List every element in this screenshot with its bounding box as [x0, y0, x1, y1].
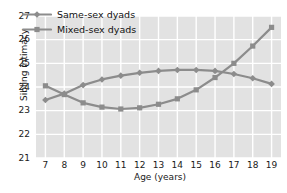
data-point-marker-square [118, 106, 123, 111]
data-point-marker-square [212, 75, 217, 80]
data-point-marker-diamond [231, 71, 238, 78]
data-point-marker-diamond [174, 67, 181, 74]
x-tick-label: 14 [167, 161, 187, 170]
x-axis-title: Age (years) [36, 172, 284, 182]
chart-figure: Sibling intimacy 21222324252627 78910111… [0, 0, 287, 193]
legend-item[interactable]: Mixed-sex dyads [22, 23, 136, 36]
data-point-marker-square [175, 96, 180, 101]
data-point-marker-square [62, 92, 67, 97]
data-point-marker-square [99, 105, 104, 110]
y-tick-label: 22 [8, 130, 30, 139]
legend-item-label: Mixed-sex dyads [57, 24, 136, 35]
data-point-marker-square [231, 61, 236, 66]
data-point-marker-square [34, 27, 39, 32]
y-tick-label: 24 [8, 83, 30, 92]
x-tick-label: 18 [243, 161, 263, 170]
data-point-marker-diamond [268, 81, 275, 88]
data-point-marker-diamond [42, 97, 49, 104]
data-point-marker-diamond [118, 72, 125, 79]
legend-item-label: Same-sex dyads [57, 9, 135, 20]
y-tick-label: 25 [8, 59, 30, 68]
data-point-marker-square [250, 43, 255, 48]
data-point-marker-diamond [193, 67, 200, 74]
x-tick-label: 12 [130, 161, 150, 170]
plot-area [36, 16, 281, 158]
x-tick-label: 9 [73, 161, 93, 170]
x-tick-label: 10 [92, 161, 112, 170]
x-tick-label: 11 [111, 161, 131, 170]
x-tick-label: 16 [205, 161, 225, 170]
x-tick-label: 15 [186, 161, 206, 170]
legend-swatch-diamond-icon [22, 9, 52, 20]
y-tick-label: 21 [8, 154, 30, 163]
x-tick-label: 17 [224, 161, 244, 170]
data-point-marker-square [81, 100, 86, 105]
data-point-marker-square [137, 105, 142, 110]
data-point-marker-diamond [249, 75, 256, 82]
x-tick-label: 7 [35, 161, 55, 170]
data-point-marker-diamond [212, 68, 219, 75]
plot-svg [36, 16, 281, 158]
gridlines [36, 16, 281, 158]
data-point-marker-square [43, 83, 48, 88]
chart-legend: Same-sex dyadsMixed-sex dyads [22, 8, 136, 36]
y-tick-label: 23 [8, 106, 30, 115]
data-point-marker-diamond [155, 68, 162, 75]
legend-item[interactable]: Same-sex dyads [22, 8, 136, 21]
y-tick-label: 26 [8, 35, 30, 44]
x-tick-label: 19 [262, 161, 282, 170]
data-point-marker-diamond [136, 70, 143, 77]
data-point-marker-square [269, 25, 274, 30]
x-tick-label: 13 [149, 161, 169, 170]
x-tick-label: 8 [54, 161, 74, 170]
legend-swatch-square-icon [22, 24, 52, 35]
data-point-marker-diamond [34, 11, 41, 18]
data-point-marker-square [194, 87, 199, 92]
data-point-marker-square [156, 102, 161, 107]
data-point-marker-diamond [99, 76, 106, 83]
